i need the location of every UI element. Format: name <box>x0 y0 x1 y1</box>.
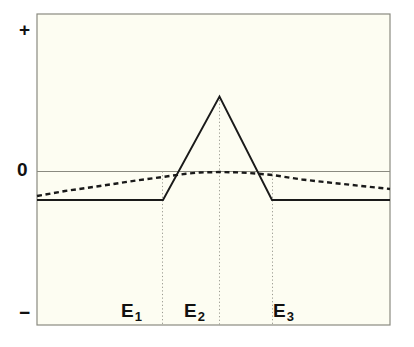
region-label-e3-subscript: 3 <box>287 309 294 324</box>
region-label-e2-subscript: 2 <box>198 309 205 324</box>
region-label-e2-text: E <box>184 300 197 321</box>
region-label-e3: E3 <box>273 301 293 320</box>
region-label-e1-subscript: 1 <box>135 309 142 324</box>
region-label-e2: E2 <box>184 301 204 320</box>
region-label-e1: E1 <box>121 301 141 320</box>
plot-frame <box>37 14 390 325</box>
y-axis-positive-label: + <box>19 20 30 39</box>
figure-canvas: + 0 − E1 E2 E3 <box>0 0 414 347</box>
region-label-e1-text: E <box>121 300 134 321</box>
y-axis-zero-label: 0 <box>17 160 28 179</box>
y-axis-negative-label: − <box>19 303 30 322</box>
region-label-e3-text: E <box>273 300 286 321</box>
plot-area <box>0 0 414 347</box>
